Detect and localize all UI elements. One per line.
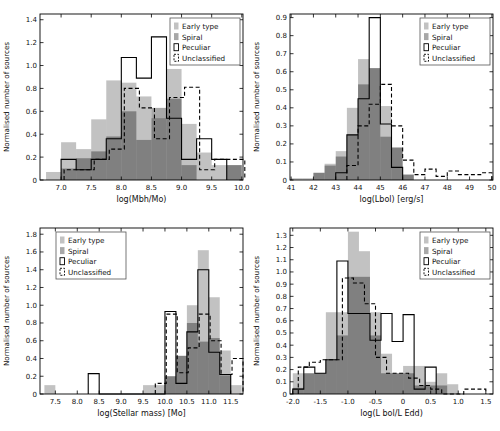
y-tick-label: 1.6 [26, 248, 38, 256]
y-tick-label: 0.8 [26, 319, 37, 327]
y-tick-label: 0.8 [276, 293, 287, 301]
y-tick-label: 0.6 [26, 108, 38, 116]
legend-label: Unclassified [432, 268, 475, 277]
y-tick-label: 1.1 [276, 256, 287, 264]
y-tick-label: 0.5 [276, 86, 287, 94]
y-axis-label: Normalised number of sources [252, 42, 261, 152]
y-tick-label: 1.2 [26, 39, 37, 47]
x-tick-label: 7.0 [56, 184, 67, 192]
x-tick-label: 7.5 [50, 398, 61, 406]
legend-label: Peculiar [432, 43, 460, 52]
legend: Early typeSpiralPeculiarUnclassified [56, 232, 126, 279]
y-tick-label: 0.2 [26, 154, 37, 162]
legend: Early typeSpiralPeculiarUnclassified [170, 18, 240, 65]
x-tick-label: -1.5 [314, 398, 328, 406]
x-tick-label: 9.0 [116, 398, 127, 406]
y-tick-label: 0.9 [276, 14, 287, 22]
x-tick-label: 9.0 [176, 184, 187, 192]
y-tick-label: 1.2 [26, 284, 37, 292]
y-tick-label: 0.4 [276, 104, 288, 112]
x-axis-label: log(Mbh/Mo) [117, 195, 167, 204]
y-tick-label: 0.8 [276, 32, 287, 40]
panel-svg: 7.07.58.08.59.09.510.000.20.40.60.81.01.… [0, 2, 250, 217]
x-tick-label: 8.5 [146, 184, 157, 192]
y-tick-label: 1.0 [26, 62, 37, 70]
y-tick-label: 0.4 [26, 355, 38, 363]
y-tick-label: 0.6 [26, 337, 38, 345]
y-tick-label: 1.8 [26, 231, 37, 239]
y-tick-label: 0.2 [276, 366, 287, 374]
y-tick-label: 0.4 [276, 342, 288, 350]
panel-svg: 4142434445464748495000.10.20.30.40.50.60… [250, 2, 500, 217]
y-tick-label: 0 [283, 177, 287, 185]
legend-label: Unclassified [68, 268, 111, 277]
x-tick-label: 9.5 [137, 398, 148, 406]
panel-svg: -2.0-1.5-1.0-0.500.51.01.500.10.20.30.40… [250, 216, 500, 431]
x-tick-label: 1.5 [480, 398, 491, 406]
x-tick-label: -0.5 [369, 398, 383, 406]
legend-swatch-icon [174, 33, 179, 40]
y-tick-label: 1.2 [276, 244, 287, 252]
legend-label: Early type [432, 236, 469, 245]
x-tick-label: 8.0 [116, 184, 127, 192]
y-tick-label: 0.5 [276, 329, 287, 337]
x-tick-label: 10.5 [179, 398, 195, 406]
x-tick-label: -2.0 [286, 398, 300, 406]
x-tick-label: 46 [398, 184, 407, 192]
y-tick-label: 0.7 [276, 50, 287, 58]
x-tick-label: 8.0 [72, 398, 83, 406]
histogram-black-hole-mass: 7.07.58.08.59.09.510.000.20.40.60.81.01.… [0, 2, 250, 217]
histogram-stellar-mass: 7.58.08.59.09.510.010.511.011.500.20.40.… [0, 216, 250, 431]
x-tick-label: 43 [331, 184, 340, 192]
y-axis-label: Normalised number of sources [2, 42, 11, 152]
y-tick-label: 0 [33, 391, 37, 399]
x-axis-label: log(Lbol) [erg/s] [360, 195, 424, 204]
y-tick-label: 1.0 [276, 268, 287, 276]
legend-swatch-icon [424, 247, 429, 254]
y-tick-label: 0.7 [276, 305, 287, 313]
legend-swatch-icon [424, 237, 429, 244]
x-tick-label: 41 [287, 184, 296, 192]
y-tick-label: 0.3 [276, 354, 287, 362]
x-tick-label: 49 [465, 184, 474, 192]
y-tick-label: 1.4 [26, 16, 38, 24]
x-tick-label: 10.0 [157, 398, 173, 406]
y-tick-label: 0.3 [276, 122, 287, 130]
y-tick-label: 1.3 [276, 232, 287, 240]
legend-swatch-icon [424, 23, 429, 30]
x-tick-label: 11.5 [223, 398, 239, 406]
legend-swatch-icon [424, 33, 429, 40]
y-tick-label: 0 [283, 391, 287, 399]
legend-swatch-icon [60, 247, 65, 254]
histogram-eddington-ratio: -2.0-1.5-1.0-0.500.51.01.500.10.20.30.40… [250, 216, 500, 431]
y-tick-label: 0.1 [276, 378, 287, 386]
x-tick-label: 8.5 [94, 398, 105, 406]
x-axis-label: log(Stellar mass) [Mo] [97, 409, 185, 418]
legend-label: Unclassified [182, 54, 225, 63]
x-tick-label: 47 [421, 184, 430, 192]
legend-swatch-icon [60, 237, 65, 244]
x-tick-label: -1.0 [341, 398, 355, 406]
x-tick-label: 1.0 [453, 398, 464, 406]
legend-swatch-icon [174, 23, 179, 30]
y-axis-label: Normalised number of sources [2, 256, 11, 366]
y-tick-label: 0.6 [276, 68, 288, 76]
x-tick-label: 11.0 [201, 398, 217, 406]
legend-label: Unclassified [432, 54, 475, 63]
y-tick-label: 0.6 [276, 317, 288, 325]
y-tick-label: 0.9 [276, 281, 287, 289]
x-tick-label: 45 [376, 184, 385, 192]
y-tick-label: 0 [33, 177, 37, 185]
x-tick-label: 7.5 [86, 184, 97, 192]
legend: Early typeSpiralPeculiarUnclassified [420, 18, 490, 65]
panel-svg: 7.58.08.59.09.510.010.511.011.500.20.40.… [0, 216, 250, 431]
x-tick-label: 48 [443, 184, 452, 192]
x-tick-label: 44 [354, 184, 363, 192]
legend-label: Early type [68, 236, 105, 245]
y-tick-label: 0.8 [26, 85, 37, 93]
x-tick-label: 50 [487, 184, 496, 192]
legend-label: Early type [432, 22, 469, 31]
y-tick-label: 1.0 [26, 302, 37, 310]
y-tick-label: 1.4 [26, 266, 38, 274]
legend-label: Spiral [68, 247, 88, 256]
